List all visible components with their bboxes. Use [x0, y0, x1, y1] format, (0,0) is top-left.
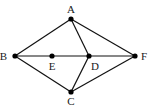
node-f — [132, 53, 137, 58]
node-c — [68, 89, 73, 94]
node-label-c: C — [67, 95, 74, 106]
node-a — [68, 16, 73, 21]
node-e — [49, 53, 54, 58]
node-label-e: E — [49, 60, 56, 72]
node-b — [12, 53, 17, 58]
edge-b-c — [15, 56, 71, 92]
node-label-f: F — [141, 50, 147, 62]
graph-diagram: ABEDFC — [0, 0, 148, 106]
node-label-d: D — [91, 60, 99, 72]
edge-a-b — [15, 19, 71, 56]
node-label-a: A — [67, 3, 75, 15]
node-label-b: B — [0, 50, 7, 62]
edges-group — [15, 19, 135, 92]
node-d — [86, 53, 91, 58]
